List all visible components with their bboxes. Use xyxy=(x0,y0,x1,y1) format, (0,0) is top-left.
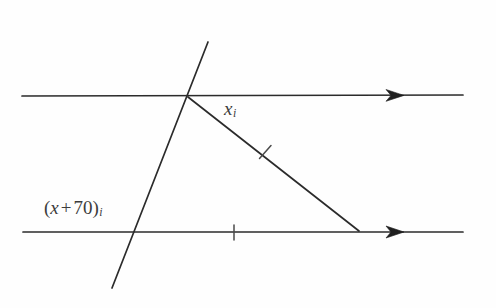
angle-plus-operator: + xyxy=(59,197,74,218)
angle-x-degree-icon: i xyxy=(232,107,236,120)
angle-label-x: xi xyxy=(224,99,236,120)
angle-close-paren: ) xyxy=(92,197,98,218)
steep-transversal-line xyxy=(112,42,208,288)
angle-x-plus-70-degree-icon: i xyxy=(99,206,103,219)
top-parallel-line xyxy=(22,90,463,102)
angle-constant-70: 70 xyxy=(73,197,92,218)
angle-label-x-plus-70: (x+70)i xyxy=(44,198,103,219)
figure-canvas xyxy=(0,0,496,308)
angle-x-plus-70-variable: x xyxy=(50,197,58,218)
diagonal-transversal-line xyxy=(188,97,359,231)
bottom-parallel-line xyxy=(23,226,463,238)
geometry-figure: xi (x+70)i xyxy=(0,0,496,308)
